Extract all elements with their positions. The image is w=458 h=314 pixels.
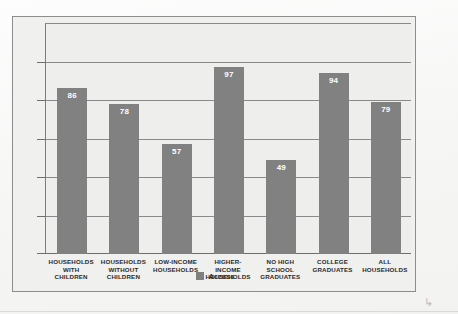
chart-figure-frame: 86785797499479 HOUSEHOLDSWITHCHILDRENHOU… [12,16,416,292]
bar[interactable]: 86 [57,88,87,254]
bar[interactable]: 94 [319,73,349,254]
y-axis-tick [37,62,46,63]
bar-value-label: 97 [214,70,244,79]
bar[interactable]: 97 [214,67,244,254]
chart-legend: Access [13,272,417,280]
bar-slot: 86 [46,23,98,254]
bar-value-label: 79 [371,105,401,114]
plot-area: 86785797499479 [45,23,411,254]
y-axis-tick [37,177,46,178]
x-axis-category-label: LOW-INCOMEHOUSEHOLDS [150,258,202,273]
legend-swatch-access [196,272,204,280]
x-axis-category-label: COLLEGEGRADUATES [306,258,358,273]
bar-value-label: 57 [162,147,192,156]
x-axis-category-label: ALLHOUSEHOLDS [359,258,411,273]
bar-slot: 97 [203,23,255,254]
y-axis-tick [37,216,46,217]
bar-value-label: 94 [319,76,349,85]
bar[interactable]: 78 [109,104,139,254]
bar-slot: 79 [360,23,412,254]
bar[interactable]: 57 [162,144,192,254]
bar[interactable]: 49 [266,160,296,254]
bar-slot: 78 [98,23,150,254]
bar[interactable]: 79 [371,102,401,254]
bar-value-label: 78 [109,107,139,116]
bar-slot: 94 [307,23,359,254]
bar-slot: 57 [151,23,203,254]
scan-artifact-mark: ↳ [424,296,434,308]
bars-layer: 86785797499479 [46,23,411,254]
page-bottom-edge [0,311,458,312]
legend-label-access: Access [209,273,235,280]
y-axis-tick [37,139,46,140]
bar-slot: 49 [255,23,307,254]
bar-value-label: 86 [57,91,87,100]
chart-screenshot: 86785797499479 HOUSEHOLDSWITHCHILDRENHOU… [0,0,458,314]
y-axis-tick [37,253,46,254]
y-axis-tick [37,100,46,101]
bar-value-label: 49 [266,163,296,172]
